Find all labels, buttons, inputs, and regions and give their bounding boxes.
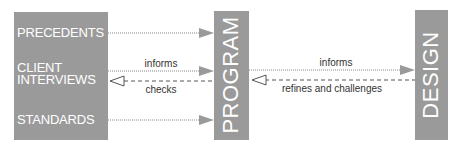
arrowhead-filled-icon: [199, 115, 214, 125]
arrows-layer: [0, 0, 466, 149]
arrowhead-hollow-icon: [252, 75, 266, 85]
arrowhead-filled-icon: [199, 66, 214, 76]
arrowhead-hollow-icon: [110, 76, 124, 86]
client-informs-label: informs: [145, 58, 178, 69]
checks-label: checks: [145, 84, 176, 95]
arrowhead-filled-icon: [400, 65, 415, 75]
arrowhead-filled-icon: [199, 28, 214, 38]
refines-label: refines and challenges: [282, 83, 382, 94]
program-informs-label: informs: [320, 57, 353, 68]
